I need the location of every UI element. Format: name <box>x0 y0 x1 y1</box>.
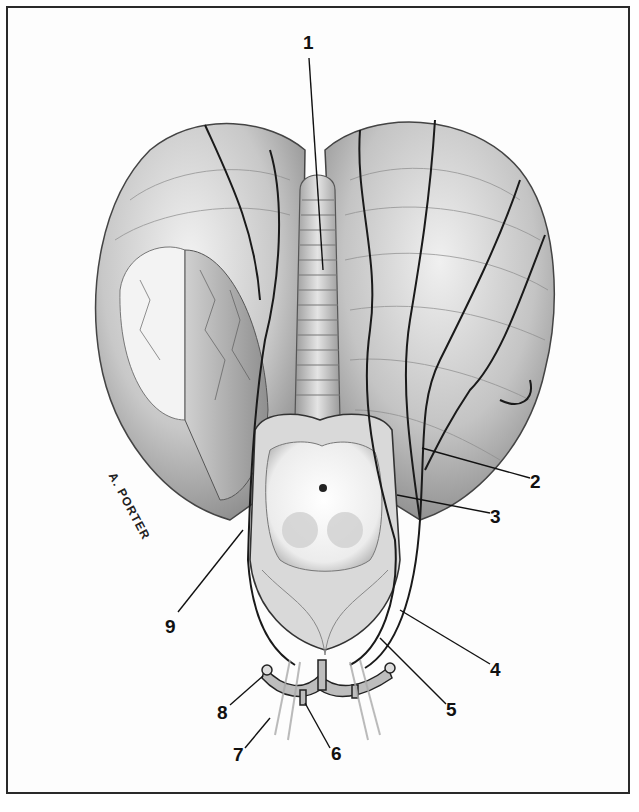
label-8: 8 <box>217 703 228 722</box>
central-canal <box>319 484 327 492</box>
label-7: 7 <box>233 745 244 764</box>
medulla-section <box>266 442 382 571</box>
label-6: 6 <box>331 744 342 763</box>
label-1: 1 <box>303 33 314 52</box>
label-4: 4 <box>490 660 501 679</box>
label-3: 3 <box>490 507 501 526</box>
label-5: 5 <box>446 700 457 719</box>
nerve-roots <box>275 660 380 740</box>
label-2: 2 <box>530 472 541 491</box>
cerebellum-illustration <box>0 0 639 812</box>
label-9: 9 <box>165 617 176 636</box>
